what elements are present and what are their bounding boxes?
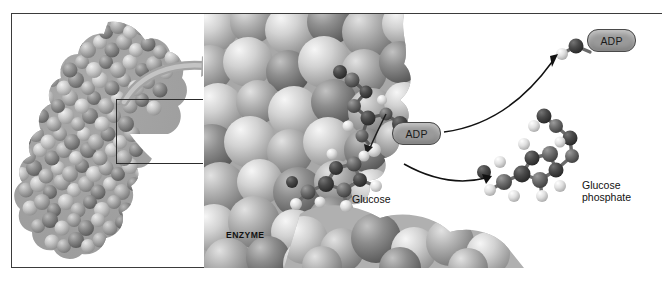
adp-release-arrowhead xyxy=(550,54,558,67)
active-site-closeup: ENZYME Glucose Glucose phosphate ADP ADP xyxy=(204,14,662,268)
enzyme-figure: ENZYME Glucose Glucose phosphate ADP ADP xyxy=(0,0,672,284)
enzyme-label: ENZYME xyxy=(226,230,265,240)
adp-pill-released: ADP xyxy=(587,29,636,52)
adp-pill-active-site: ADP xyxy=(392,122,441,145)
released-adp-fragment xyxy=(556,39,590,61)
active-site-inset-box xyxy=(116,99,203,164)
glucose-phosphate-label-line1: Glucose xyxy=(582,179,621,191)
glucose-phosphate-label-line2: phosphate xyxy=(582,191,631,203)
whole-enzyme-overview xyxy=(12,14,203,267)
glucose-label: Glucose xyxy=(352,193,391,205)
glucose-phosphate-molecule xyxy=(477,109,579,203)
product-release-arrow xyxy=(404,164,486,181)
